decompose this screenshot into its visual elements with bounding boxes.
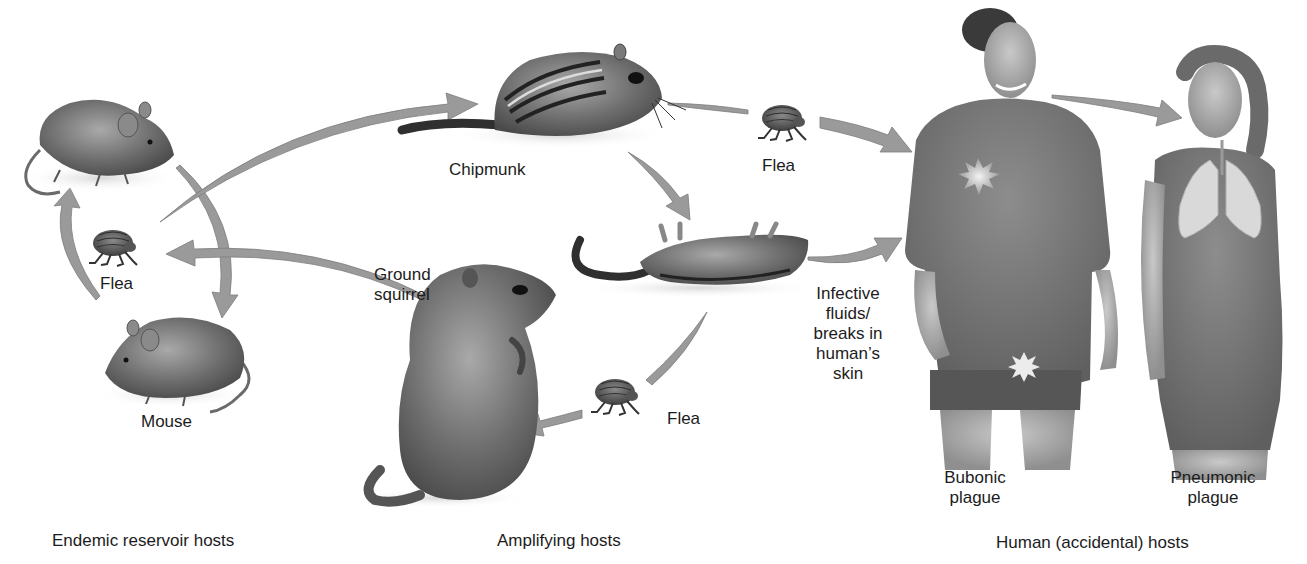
arrow-flea-to-man [820, 117, 912, 152]
arrow-chipmunk-to-dead-rodent [628, 152, 690, 220]
arrow-dead-rodent-to-man [808, 238, 902, 263]
flea-bottom-label: Flea [667, 409, 700, 429]
flea-icon [758, 105, 806, 141]
pneumonic-label-line2: plague [1163, 488, 1263, 508]
group-label-human: Human (accidental) hosts [996, 533, 1189, 553]
bubonic-label-line1: Bubonic [930, 468, 1020, 488]
flea-left-label: Flea [100, 274, 133, 294]
infective-note-line2: fluids/ [808, 304, 888, 324]
arrow-chipmunk-to-flea [668, 103, 748, 114]
flea-top-label: Flea [762, 156, 795, 176]
dead-rodent-icon [576, 224, 821, 298]
pneumonic-plague-label: Pneumonic plague [1163, 468, 1263, 508]
group-label-amplifying: Amplifying hosts [497, 531, 621, 551]
mouse-icon [20, 100, 180, 194]
infective-note-line1: Infective [808, 284, 888, 304]
infective-fluids-note: Infective fluids/ breaks in human’s skin [808, 284, 888, 384]
bubonic-plague-label: Bubonic plague [930, 468, 1020, 508]
ground-squirrel-label: Ground squirrel [374, 265, 431, 305]
ground-squirrel-label-line2: squirrel [374, 285, 431, 305]
chipmunk-label: Chipmunk [449, 160, 526, 180]
plague-transmission-diagram: Flea Mouse Chipmunk Flea Ground squirrel… [0, 0, 1307, 564]
infective-note-line5: skin [808, 364, 888, 384]
chipmunk-icon [402, 44, 686, 149]
bubonic-label-line2: plague [930, 488, 1020, 508]
group-label-endemic: Endemic reservoir hosts [52, 531, 234, 551]
infective-note-line3: breaks in [808, 324, 888, 344]
flea-icon [591, 379, 639, 415]
ground-squirrel-label-line1: Ground [374, 265, 431, 285]
mouse-label: Mouse [141, 412, 192, 432]
pneumonic-label-line1: Pneumonic [1163, 468, 1263, 488]
mouse-icon [95, 318, 249, 413]
arrow-dead-rodent-to-flea [646, 312, 707, 385]
human-male-icon [905, 8, 1118, 470]
flea-icon [89, 230, 137, 266]
infective-note-line4: human’s [808, 344, 888, 364]
diagram-canvas [0, 0, 1307, 564]
